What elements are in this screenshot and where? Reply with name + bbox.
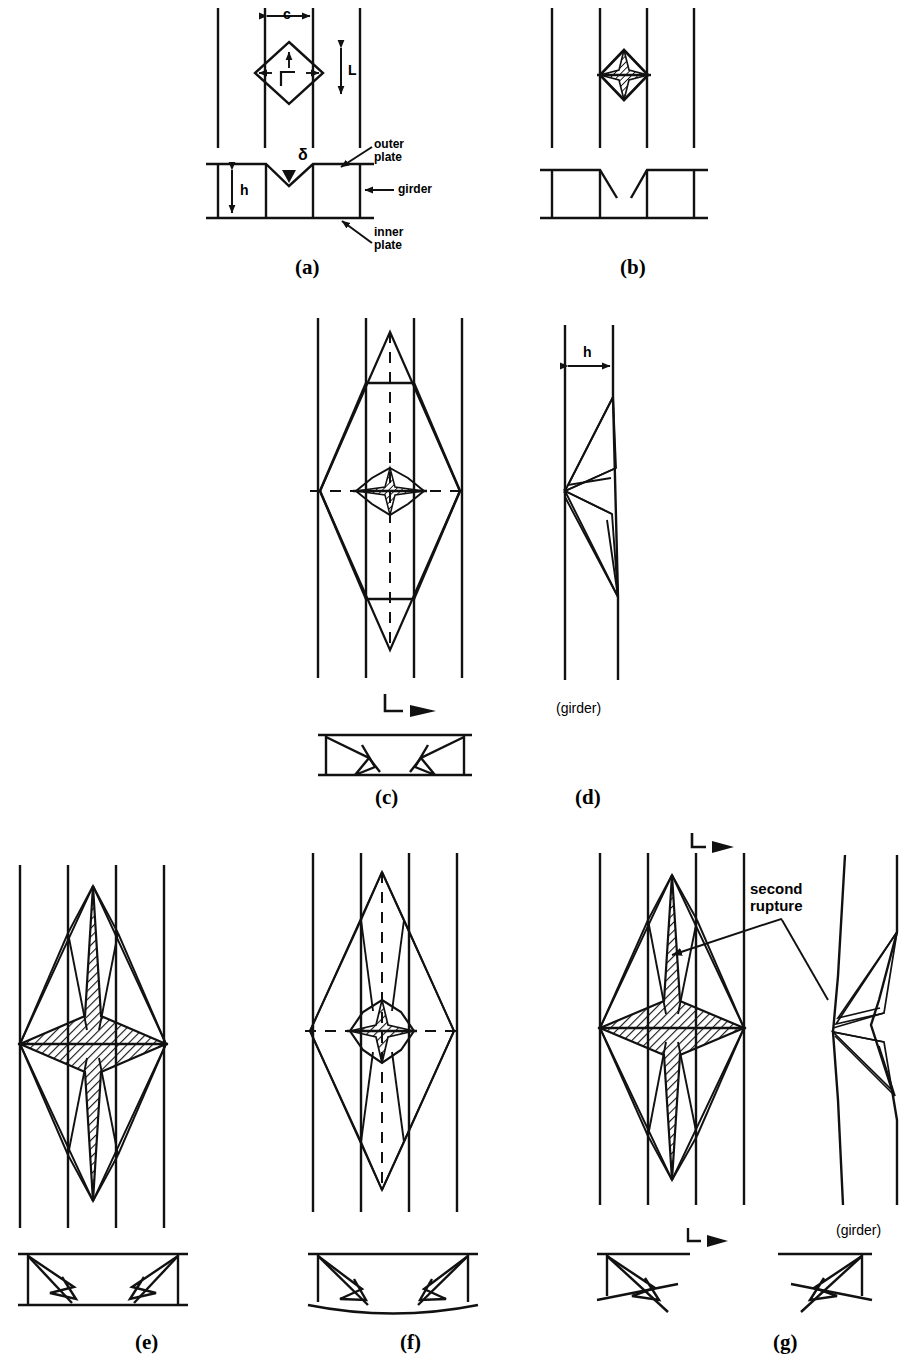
panel-g-girder-elevation <box>833 855 897 1205</box>
girder-caption-panel-d: (girder) <box>556 700 601 716</box>
dimension-label-h-panel-d: h <box>583 344 592 360</box>
panel-e-section-view <box>18 1254 188 1305</box>
girder-label: girder <box>398 183 432 196</box>
panel-c-section-cut-marker <box>385 694 436 717</box>
panel-label-g: (g) <box>773 1330 798 1355</box>
panel-f-section-view <box>308 1254 478 1314</box>
panel-b-plan-view <box>552 8 694 148</box>
inner-plate-label: inner plate <box>374 226 403 252</box>
figure-canvas: c L h δ outer plate girder inner plate h… <box>0 0 904 1363</box>
panel-d-girder-elevation <box>565 325 618 680</box>
panel-label-f: (f) <box>400 1330 421 1355</box>
panel-label-c: (c) <box>375 785 398 810</box>
panel-b-section-view <box>540 170 708 218</box>
dimension-label-L: L <box>348 62 357 78</box>
dimension-label-h-panel-a: h <box>240 182 249 198</box>
panel-g-section-cut-marker-bottom <box>688 1228 728 1247</box>
panel-a-plan-view <box>218 8 360 148</box>
second-rupture-label: second rupture <box>750 880 803 914</box>
panel-label-e: (e) <box>135 1330 158 1355</box>
panel-c-plan-view <box>310 318 470 678</box>
figure-vector-artwork <box>0 0 904 1363</box>
dimension-label-c: c <box>283 6 291 22</box>
panel-f-plan-view <box>305 853 465 1212</box>
panel-label-d: (d) <box>575 785 601 810</box>
outer-plate-label: outer plate <box>374 138 404 164</box>
panel-g-section-view <box>597 1254 872 1312</box>
girder-caption-panel-g: (girder) <box>836 1222 881 1238</box>
panel-label-a: (a) <box>295 255 320 280</box>
dent-depth-label-delta: δ <box>298 146 308 164</box>
panel-c-section-view <box>318 735 472 775</box>
panel-e-plan-view <box>18 865 168 1228</box>
panel-g-section-cut-marker-top <box>692 833 734 853</box>
panel-label-b: (b) <box>620 255 646 280</box>
